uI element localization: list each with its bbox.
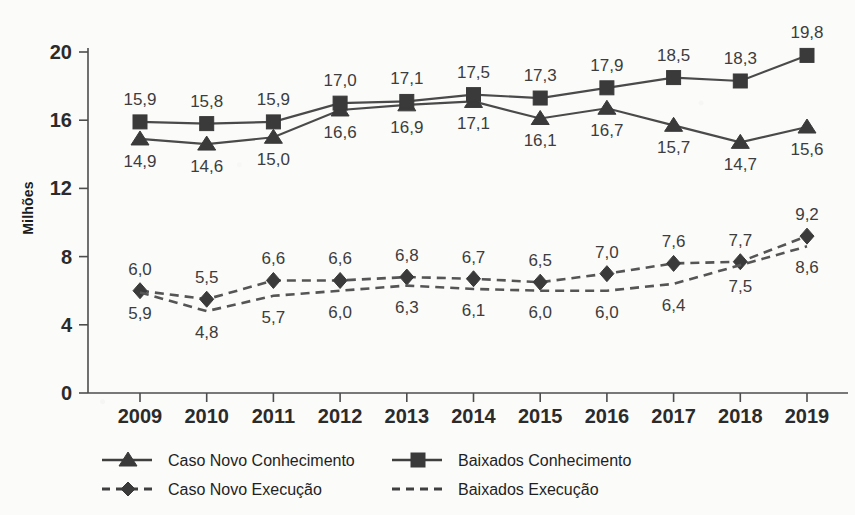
chart-legend: Caso Novo ConhecimentoBaixados Conhecime… <box>102 452 632 498</box>
data-point-label: 6,1 <box>462 301 486 320</box>
data-point-label: 8,6 <box>795 258 819 277</box>
data-point-marker-square <box>133 115 147 129</box>
data-point-label: 16,6 <box>324 123 357 142</box>
data-point-marker-diamond <box>266 272 280 288</box>
data-point-label: 6,6 <box>262 249 286 268</box>
data-point-label: 7,0 <box>595 243 619 262</box>
data-point-marker-square <box>200 117 214 131</box>
data-point-marker-diamond <box>200 291 214 307</box>
y-tick-label: 12 <box>50 177 72 199</box>
y-tick-label: 0 <box>61 382 72 404</box>
x-tick-label: 2017 <box>651 405 696 427</box>
data-point-marker-square <box>733 74 747 88</box>
y-tick-label: 20 <box>50 41 72 63</box>
data-point-marker-diamond <box>467 271 481 287</box>
x-tick-label: 2012 <box>318 405 363 427</box>
x-tick-label: 2013 <box>385 405 430 427</box>
data-point-label: 15,9 <box>123 90 156 109</box>
data-point-label: 6,0 <box>328 303 352 322</box>
data-point-label: 15,7 <box>657 138 690 157</box>
y-tick-label: 4 <box>61 314 73 336</box>
data-point-label: 19,8 <box>790 23 823 42</box>
data-point-label: 16,1 <box>524 131 557 150</box>
legend-item-label: Baixados Execução <box>458 481 599 498</box>
data-point-marker-square <box>400 94 414 108</box>
data-point-label: 15,9 <box>257 90 290 109</box>
data-point-label: 17,1 <box>457 114 490 133</box>
data-point-marker-diamond <box>333 272 347 288</box>
data-point-label: 15,8 <box>190 92 223 111</box>
x-tick-label: 2016 <box>585 405 630 427</box>
legend-item[interactable]: Baixados Execução <box>392 481 599 498</box>
x-tick-label: 2009 <box>118 405 163 427</box>
data-point-label: 18,3 <box>724 49 757 68</box>
x-tick-label: 2018 <box>718 405 763 427</box>
data-point-marker-diamond <box>133 283 147 299</box>
y-tick-label: 16 <box>50 109 72 131</box>
data-point-label: 14,9 <box>123 152 156 171</box>
data-point-label: 17,0 <box>324 71 357 90</box>
data-point-label: 6,8 <box>395 246 419 265</box>
legend-marker-diamond <box>121 482 135 496</box>
data-point-label: 4,8 <box>195 323 219 342</box>
y-tick-label: 8 <box>61 246 72 268</box>
data-point-label: 5,9 <box>128 304 152 323</box>
data-point-marker-diamond <box>800 228 814 244</box>
legend-item-label: Caso Novo Execução <box>168 481 322 498</box>
legend-marker-square <box>411 453 425 467</box>
data-point-marker-square <box>266 115 280 129</box>
x-tick-label: 2019 <box>785 405 830 427</box>
data-point-marker-diamond <box>600 266 614 282</box>
data-point-label: 6,4 <box>662 296 686 315</box>
chart-series: 14,914,615,016,616,917,116,116,715,714,7… <box>123 93 823 176</box>
legend-item-label: Baixados Conhecimento <box>458 452 632 469</box>
data-point-label: 6,0 <box>528 303 552 322</box>
data-point-label: 5,5 <box>195 268 219 287</box>
data-point-label: 6,5 <box>528 251 552 270</box>
data-point-label: 16,9 <box>390 118 423 137</box>
data-point-marker-square <box>467 88 481 102</box>
legend-item[interactable]: Caso Novo Execução <box>102 481 322 498</box>
data-point-marker-triangle <box>598 100 616 114</box>
data-point-label: 6,7 <box>462 248 486 267</box>
data-point-label: 7,6 <box>662 232 686 251</box>
x-tick-label: 2011 <box>252 405 295 427</box>
data-point-marker-square <box>533 91 547 105</box>
data-point-label: 15,6 <box>790 140 823 159</box>
data-point-label: 6,6 <box>328 249 352 268</box>
legend-item[interactable]: Baixados Conhecimento <box>392 452 632 469</box>
chart-series: 6,05,56,66,66,86,76,57,07,67,79,2 <box>128 205 819 307</box>
data-point-marker-diamond <box>533 274 547 290</box>
data-point-label: 17,1 <box>390 69 423 88</box>
data-point-marker-diamond <box>667 255 681 271</box>
chart-container: 048121620Milhões200920102011201220132014… <box>0 0 855 515</box>
y-axis-title: Milhões <box>20 181 36 235</box>
data-point-marker-triangle <box>264 129 282 143</box>
data-point-label: 14,6 <box>190 157 223 176</box>
x-tick-label: 2014 <box>451 405 496 427</box>
data-point-label: 5,7 <box>262 308 286 327</box>
data-point-marker-square <box>800 48 814 62</box>
data-point-marker-square <box>600 81 614 95</box>
data-point-label: 7,7 <box>728 231 752 250</box>
x-tick-label: 2015 <box>518 405 563 427</box>
line-chart: 048121620Milhões200920102011201220132014… <box>0 0 855 515</box>
data-point-label: 15,0 <box>257 150 290 169</box>
data-point-label: 17,9 <box>590 56 623 75</box>
x-tick-label: 2010 <box>184 405 229 427</box>
data-point-label: 17,5 <box>457 63 490 82</box>
data-point-label: 7,5 <box>728 277 752 296</box>
data-point-marker-square <box>667 71 681 85</box>
data-point-label: 6,0 <box>595 303 619 322</box>
data-point-label: 9,2 <box>795 205 819 224</box>
data-point-label: 14,7 <box>724 155 757 174</box>
legend-item-label: Caso Novo Conhecimento <box>168 452 355 469</box>
data-point-label: 6,0 <box>128 260 152 279</box>
data-point-label: 18,5 <box>657 46 690 65</box>
data-point-marker-triangle <box>131 131 149 145</box>
legend-item[interactable]: Caso Novo Conhecimento <box>102 452 355 469</box>
data-point-marker-triangle <box>798 119 816 133</box>
data-point-marker-diamond <box>400 269 414 285</box>
data-point-label: 17,3 <box>524 66 557 85</box>
data-point-label: 16,7 <box>590 121 623 140</box>
